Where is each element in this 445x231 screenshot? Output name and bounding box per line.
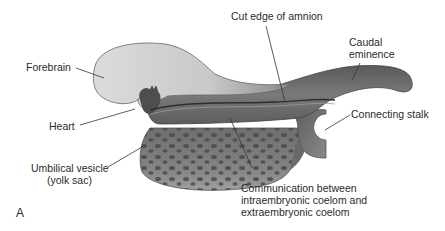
- embryo-diagram: Cut edge of amnion Forebrain Caudal emin…: [0, 0, 445, 231]
- label-caudal-eminence-1: Caudal: [349, 36, 382, 48]
- umbilical-vesicle-shape: [140, 128, 307, 190]
- label-forebrain: Forebrain: [26, 61, 71, 73]
- leader-heart: [80, 109, 135, 125]
- label-communication-2: intraembryonic coelom and: [241, 194, 367, 206]
- label-umbilical-vesicle-1: Umbilical vesicle: [31, 162, 109, 174]
- label-communication-1: Communication between: [241, 182, 357, 194]
- panel-letter: A: [16, 206, 24, 220]
- label-communication-3: extraembryonic coelom: [241, 206, 350, 218]
- label-caudal-eminence-2: eminence: [349, 48, 395, 60]
- label-umbilical-vesicle-2: (yolk sac): [47, 174, 92, 186]
- label-connecting-stalk: Connecting stalk: [351, 108, 429, 120]
- label-heart: Heart: [49, 120, 75, 132]
- label-cut-edge-of-amnion: Cut edge of amnion: [231, 10, 323, 22]
- leader-umbilical-vesicle: [108, 147, 142, 167]
- leader-connecting-stalk: [325, 115, 350, 130]
